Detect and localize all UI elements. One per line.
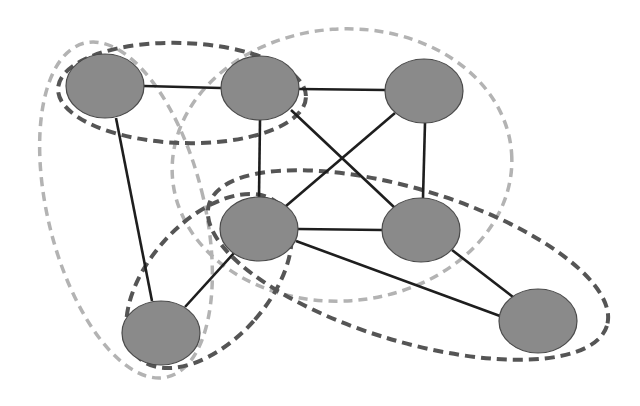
node-n1[interactable] <box>66 54 144 118</box>
community-graph-diagram <box>0 0 640 406</box>
edge-n5-n6 <box>452 250 513 297</box>
edge-n1-n7 <box>116 118 152 301</box>
node-n6[interactable] <box>499 289 577 353</box>
graph-nodes <box>66 54 577 365</box>
edge-n3-n5 <box>423 123 425 198</box>
node-n3[interactable] <box>385 59 463 123</box>
node-n5[interactable] <box>382 198 460 262</box>
node-n4[interactable] <box>220 197 298 261</box>
edge-n2-n4 <box>259 120 260 197</box>
node-n7[interactable] <box>122 301 200 365</box>
group-outline-n2-n3-n4-n5 <box>163 17 521 312</box>
edge-n1-n2 <box>144 86 221 88</box>
node-n2[interactable] <box>221 56 299 120</box>
group-outline-n4-n5-n6 <box>187 132 629 399</box>
edge-n4-n5 <box>298 229 382 230</box>
edge-n2-n3 <box>299 89 385 90</box>
